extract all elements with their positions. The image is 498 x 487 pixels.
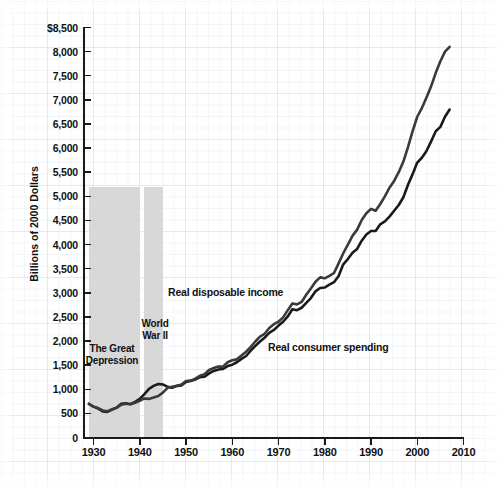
world-war-2-label: World War II <box>134 318 176 341</box>
chart-plot-area: $8,5008,0007,5007,0006,5006,0005,5005,00… <box>0 0 498 487</box>
world-war-2-label-line2: War II <box>134 330 176 342</box>
great-depression-label: The Great Depression <box>78 343 146 366</box>
y-axis-title: Billions of 2000 Dollars <box>28 124 40 324</box>
series-lines <box>0 0 498 487</box>
great-depression-label-line1: The Great <box>78 343 146 355</box>
great-depression-label-line2: Depression <box>78 355 146 367</box>
world-war-2-label-line1: World <box>134 318 176 330</box>
real-consumer-spending-label: Real consumer spending <box>268 341 388 353</box>
real-disposable-income-label: Real disposable income <box>168 286 283 298</box>
line-real-disposable-income <box>89 110 450 412</box>
